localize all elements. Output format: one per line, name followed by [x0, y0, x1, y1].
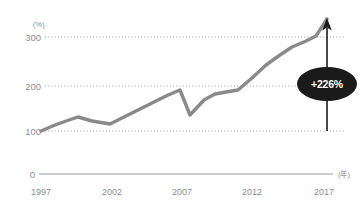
- x-tick-label-2002: 2002: [102, 187, 122, 197]
- x-tick-label-1997: 1997: [31, 187, 51, 197]
- y-tick-label-200: 200: [25, 81, 41, 92]
- y-tick-label-300: 300: [25, 32, 41, 43]
- badge-label: +226%: [311, 78, 344, 90]
- x-tick-label-2017: 2017: [314, 187, 334, 197]
- x-tick-label-2007: 2007: [172, 187, 192, 197]
- chart-container: 300 200 100 (%) +226% 0 (年) 1997 2002 20…: [0, 0, 360, 218]
- x-tick-label-2012: 2012: [242, 187, 262, 197]
- x-axis: 0 (年): [30, 169, 351, 180]
- x-axis-unit-label: (年): [338, 169, 350, 179]
- x-axis-zero-label: 0: [30, 169, 35, 180]
- growth-badge: +226%: [297, 67, 357, 101]
- y-axis-unit-label: (%): [33, 20, 45, 29]
- x-tick-labels: 1997 2002 2007 2012 2017: [31, 187, 334, 197]
- line-chart: 300 200 100 (%) +226% 0 (年) 1997 2002 20…: [0, 0, 360, 218]
- data-line-series: [41, 19, 327, 131]
- y-tick-label-100: 100: [25, 126, 41, 137]
